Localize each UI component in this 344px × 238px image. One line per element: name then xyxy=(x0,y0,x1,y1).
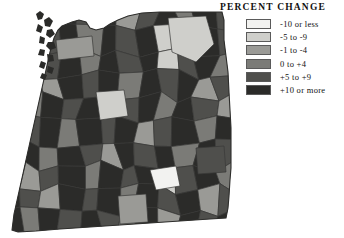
legend-label: -1 to -4 xyxy=(280,45,307,55)
legend-item: -1 to -4 xyxy=(198,44,344,57)
county-region xyxy=(76,6,105,25)
county-region xyxy=(20,189,41,208)
legend-label: +10 or more xyxy=(280,85,325,95)
legend-label: +5 to +9 xyxy=(280,72,311,82)
legend-rows: -10 or less-5 to -9-1 to -40 to +4+5 to … xyxy=(198,18,344,96)
legend-swatch xyxy=(246,45,271,55)
legend-item: +10 or more xyxy=(198,83,344,96)
county-region xyxy=(19,6,46,35)
county-region xyxy=(101,116,116,144)
legend-swatch xyxy=(246,59,271,69)
legend-item: -10 or less xyxy=(198,18,344,31)
map-figure: PERCENT CHANGE -10 or less-5 to -9-1 to … xyxy=(0,0,344,238)
legend-swatch xyxy=(246,32,271,42)
county-region xyxy=(56,36,94,60)
county-region xyxy=(96,90,128,120)
legend-item: -5 to -9 xyxy=(198,31,344,44)
county-region xyxy=(21,114,40,147)
county-region xyxy=(215,116,232,140)
county-region xyxy=(19,46,40,81)
legend-label: -5 to -9 xyxy=(280,32,307,42)
county-region xyxy=(4,138,26,163)
legend: PERCENT CHANGE -10 or less-5 to -9-1 to … xyxy=(198,2,344,97)
county-region xyxy=(4,6,23,33)
legend-label: -10 or less xyxy=(280,19,319,29)
county-region xyxy=(153,117,171,147)
county-region xyxy=(76,118,103,146)
county-region xyxy=(4,26,23,52)
legend-item: +5 to +9 xyxy=(198,70,344,83)
legend-swatch xyxy=(246,19,271,29)
county-region xyxy=(196,146,226,174)
legend-label: 0 to +4 xyxy=(280,59,306,69)
county-region xyxy=(104,6,116,25)
county-region xyxy=(57,209,83,234)
county-region xyxy=(118,194,148,224)
legend-swatch xyxy=(246,72,271,82)
legend-swatch xyxy=(246,85,271,95)
legend-title: PERCENT CHANGE xyxy=(202,2,344,12)
legend-item: 0 to +4 xyxy=(198,57,344,70)
county-region xyxy=(4,75,26,96)
county-region xyxy=(4,46,22,81)
